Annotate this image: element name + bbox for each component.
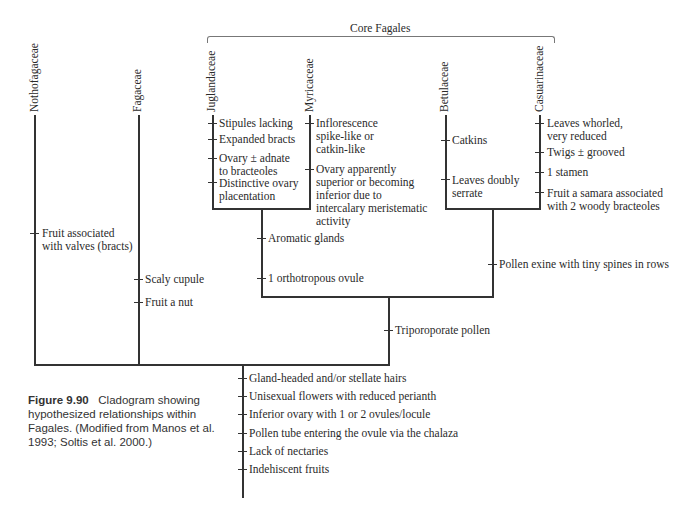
branch-nothofagaceae <box>34 115 36 365</box>
character-label: Catkins <box>452 134 487 147</box>
taxon-casuarinaceae: Casuarinaceae <box>533 46 545 112</box>
character-label: Pollen tube entering the ovule via the c… <box>249 427 458 440</box>
character-label: Stipules lacking <box>219 117 293 130</box>
tick <box>30 233 39 234</box>
character-label: 1 orthotropous ovule <box>268 272 364 285</box>
tick <box>305 123 314 124</box>
character-label: Triporoporate pollen <box>395 324 490 337</box>
tick <box>535 152 544 153</box>
tick <box>305 169 314 170</box>
tick <box>238 451 247 452</box>
figure-number: Figure 9.90 <box>28 394 89 406</box>
character-label: Fruit associated with valves (bracts) <box>42 227 133 253</box>
branch-betu-casu <box>492 208 494 297</box>
tick <box>535 123 544 124</box>
tick <box>384 330 393 331</box>
tick <box>134 279 143 280</box>
core-fagales-bracket <box>207 36 555 43</box>
character-label: Fruit a samara associated with 2 woody b… <box>547 187 663 213</box>
taxon-myricaceae: Myricaceae <box>303 58 315 112</box>
tick <box>488 264 497 265</box>
branch-casuarinaceae <box>539 115 541 209</box>
character-label: Ovary ± adnate to bracteoles <box>219 152 290 178</box>
tick <box>208 182 217 183</box>
core-fagales-label: Core Fagales <box>350 22 410 34</box>
tick <box>208 123 217 124</box>
character-label: Gland-headed and/or stellate hairs <box>249 372 406 385</box>
tick <box>257 238 266 239</box>
node-core <box>261 296 494 298</box>
character-label: 1 stamen <box>547 166 588 179</box>
node-root <box>34 364 390 366</box>
tick <box>208 139 217 140</box>
character-label: Scaly cupule <box>145 273 204 286</box>
character-label: Fruit a nut <box>145 296 193 309</box>
taxon-fagaceae: Fagaceae <box>131 69 143 112</box>
tick <box>238 378 247 379</box>
character-label: Unisexual flowers with reduced perianth <box>249 390 436 403</box>
taxon-juglandaceae: Juglandaceae <box>205 51 217 112</box>
branch-juglandaceae <box>212 115 214 209</box>
taxon-nothofagaceae: Nothofagaceae <box>28 43 40 112</box>
character-label: Distinctive ovary placentation <box>219 177 299 203</box>
character-label: Inferior ovary with 1 or 2 ovules/locule <box>249 408 430 421</box>
tick <box>535 192 544 193</box>
character-label: Pollen exine with tiny spines in rows <box>499 258 669 271</box>
branch-fagaceae <box>138 115 140 365</box>
branch-myricaceae <box>309 115 311 209</box>
character-label: Twigs ± grooved <box>547 146 625 159</box>
tick <box>238 469 247 470</box>
tick <box>441 179 450 180</box>
branch-betulaceae <box>445 115 447 209</box>
character-label: Leaves whorled, very reduced <box>547 117 623 143</box>
tick <box>441 140 450 141</box>
branch-jugl-myri <box>261 208 263 297</box>
tick <box>134 302 143 303</box>
character-label: Aromatic glands <box>268 232 344 245</box>
tick <box>257 278 266 279</box>
character-label: Indehiscent fruits <box>249 463 329 476</box>
tick <box>208 158 217 159</box>
character-label: Leaves doubly serrate <box>452 174 519 200</box>
character-label: Expanded bracts <box>219 133 295 146</box>
taxon-betulaceae: Betulaceae <box>438 62 450 112</box>
character-label: Inflorescence spike-like or catkin-like <box>316 117 378 156</box>
tick <box>535 172 544 173</box>
character-label: Ovary apparently superior or becoming in… <box>316 163 427 228</box>
figure-caption: Figure 9.90 Cladogram showing hypothesiz… <box>28 393 243 449</box>
character-label: Lack of nectaries <box>249 445 328 458</box>
